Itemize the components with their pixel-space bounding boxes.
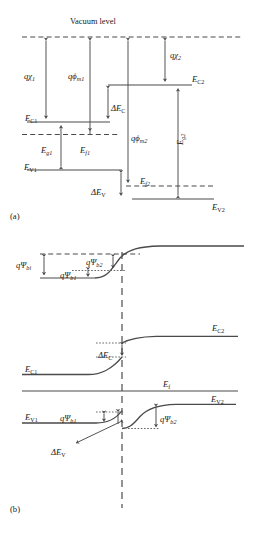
panel-b-valence [22,404,236,443]
label-q-phi-m1: qϕm1 [68,71,84,82]
panel-a-arrows [46,41,178,196]
label-delta-ec-b: ΔEC [97,350,112,361]
label-q-psi-b2-top: qΨb2 [86,257,102,268]
label-ev2-b: EV2 [210,394,224,405]
label-delta-ec-a: ΔEC [110,103,125,114]
label-ev1-a: EV1 [23,162,37,173]
vacuum-level-label: Vacuum level [70,17,116,26]
label-q-chi1: qχ1 [24,71,35,82]
ec2-curve-b [122,336,238,343]
label-q-psi-b1-low: qΨb1 [60,413,76,424]
label-delta-ev-a: ΔEV [90,187,106,198]
label-ef-b: Ef [162,379,171,390]
label-eg1: Eg1 [40,145,52,156]
figure-container: Vacuum level qχ1 qϕm1 qϕm2 qχ2 EC1 EC2 E… [0,0,257,535]
label-q-psi-b1-top: qΨb1 [60,270,76,281]
ev2-curve-b [122,404,236,428]
label-ec1-b: EC1 [24,364,37,375]
label-delta-ev-b: ΔEV [50,447,66,458]
label-ec2-a: EC2 [191,74,204,85]
label-q-psi-bi: qΨbi [16,260,31,271]
top-band-curve [95,246,244,278]
panel-b-caption: (b) [10,504,20,514]
label-eg2: Eg2 [175,134,186,146]
label-ef1: Ef1 [79,145,90,156]
label-q-phi-m2: qϕm2 [131,133,147,144]
label-ev2-a: EV2 [211,202,225,213]
label-q-psi-b2-low: qΨb2 [160,414,176,425]
label-ef2: Ef2 [139,176,150,187]
panel-b-top [40,246,244,278]
label-ev1-b: EV1 [24,412,38,423]
panel-a-caption: (a) [10,211,20,221]
label-ec2-b: EC2 [211,323,224,334]
band-diagram-svg: Vacuum level qχ1 qϕm1 qϕm2 qχ2 EC1 EC2 E… [0,0,257,535]
panel-b-conduction [22,336,238,374]
label-ec1-a: EC1 [24,113,37,124]
label-q-chi2: qχ2 [170,50,181,61]
panel-a-levels [22,37,242,199]
arrow-delta-ev-b [76,422,120,443]
